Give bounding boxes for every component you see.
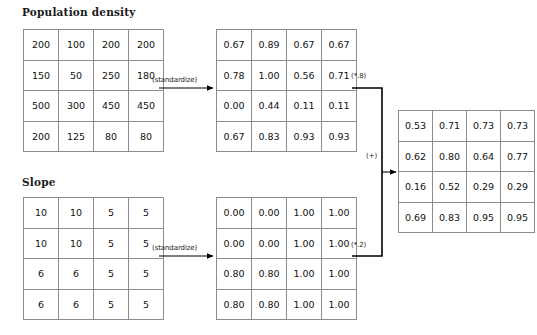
matrix-cell: 0.80 xyxy=(217,289,252,320)
matrix-cell: 0.95 xyxy=(501,202,535,233)
matrix-cell: 5 xyxy=(129,289,164,320)
matrix-row: 15050250180 xyxy=(24,60,164,91)
matrix-cell: 0.67 xyxy=(322,30,357,61)
matrix-cell: 10 xyxy=(24,198,59,229)
matrix-cell: 1.00 xyxy=(287,289,322,320)
matrix-cell: 250 xyxy=(94,60,129,91)
matrix-cell: 0.80 xyxy=(252,289,287,320)
matrix-cell: 150 xyxy=(24,60,59,91)
matrix-cell: 0.53 xyxy=(399,111,433,142)
matrix-cell: 0.67 xyxy=(287,30,322,61)
matrix-cell: 0.11 xyxy=(287,91,322,122)
matrix-cell: 0.78 xyxy=(217,60,252,91)
matrix-cell: 6 xyxy=(24,289,59,320)
matrix-cell: 500 xyxy=(24,91,59,122)
matrix-cell: 0.80 xyxy=(433,141,467,172)
matrix-row: 0.670.830.930.93 xyxy=(217,121,357,152)
matrix-cell: 5 xyxy=(129,198,164,229)
matrix-cell: 0.00 xyxy=(252,228,287,259)
matrix-cell: 5 xyxy=(94,259,129,290)
matrix-cell: 300 xyxy=(59,91,94,122)
matrix-cell: 5 xyxy=(129,259,164,290)
matrix-row: 0.781.000.560.71 xyxy=(217,60,357,91)
matrix-row: 0.530.710.730.73 xyxy=(399,111,535,142)
matrix-cell: 1.00 xyxy=(322,259,357,290)
matrix-row: 0.620.800.640.77 xyxy=(399,141,535,172)
matrix-cell: 0.77 xyxy=(501,141,535,172)
matrix-row: 2001258080 xyxy=(24,121,164,152)
edge-label-standardize-slope: (standardize) xyxy=(152,244,197,252)
matrix-cell: 10 xyxy=(24,228,59,259)
matrix-cell: 0.64 xyxy=(467,141,501,172)
matrix-cell: 0.80 xyxy=(217,259,252,290)
matrix-cell: 0.73 xyxy=(467,111,501,142)
matrix-cell: 200 xyxy=(94,30,129,61)
matrix-cell: 0.93 xyxy=(322,121,357,152)
slope-title: Slope xyxy=(22,176,56,188)
matrix-row: 0.800.801.001.00 xyxy=(217,259,357,290)
population-density-title: Population density xyxy=(22,6,136,18)
matrix-cell: 0.00 xyxy=(217,198,252,229)
matrix-cell: 0.44 xyxy=(252,91,287,122)
matrix-cell: 6 xyxy=(59,289,94,320)
matrix-cell: 0.11 xyxy=(322,91,357,122)
matrix-cell: 0.62 xyxy=(399,141,433,172)
matrix-cell: 1.00 xyxy=(287,259,322,290)
matrix-cell: 80 xyxy=(129,121,164,152)
matrix-cell: 1.00 xyxy=(287,198,322,229)
matrix-row: 0.800.801.001.00 xyxy=(217,289,357,320)
edge-label-weight-population: (*.8) xyxy=(351,72,366,80)
matrix-row: 6655 xyxy=(24,259,164,290)
diagram-canvas: Population density Slope 200100200200150… xyxy=(0,0,537,335)
matrix-row: 0.160.520.290.29 xyxy=(399,172,535,203)
matrix-cell: 0.95 xyxy=(467,202,501,233)
population-density-standardized-matrix: 0.670.890.670.670.781.000.560.710.000.44… xyxy=(216,29,357,152)
matrix-cell: 1.00 xyxy=(322,289,357,320)
matrix-cell: 125 xyxy=(59,121,94,152)
edge-label-weight-slope: (*.2) xyxy=(351,241,366,249)
matrix-row: 500300450450 xyxy=(24,91,164,122)
matrix-row: 0.670.890.670.67 xyxy=(217,30,357,61)
matrix-cell: 80 xyxy=(94,121,129,152)
matrix-cell: 200 xyxy=(129,30,164,61)
matrix-row: 0.000.001.001.00 xyxy=(217,198,357,229)
matrix-row: 200100200200 xyxy=(24,30,164,61)
weighted-sum-result-matrix: 0.530.710.730.730.620.800.640.770.160.52… xyxy=(398,110,535,233)
matrix-cell: 0.56 xyxy=(287,60,322,91)
matrix-cell: 0.93 xyxy=(287,121,322,152)
matrix-cell: 1.00 xyxy=(252,60,287,91)
matrix-cell: 0.83 xyxy=(252,121,287,152)
matrix-cell: 0.29 xyxy=(467,172,501,203)
matrix-cell: 0.29 xyxy=(501,172,535,203)
matrix-cell: 0.69 xyxy=(399,202,433,233)
matrix-row: 6655 xyxy=(24,289,164,320)
matrix-cell: 0.89 xyxy=(252,30,287,61)
matrix-cell: 0.67 xyxy=(217,121,252,152)
matrix-row: 101055 xyxy=(24,228,164,259)
matrix-cell: 0.16 xyxy=(399,172,433,203)
matrix-cell: 50 xyxy=(59,60,94,91)
matrix-cell: 200 xyxy=(24,30,59,61)
matrix-cell: 450 xyxy=(94,91,129,122)
matrix-cell: 0.73 xyxy=(501,111,535,142)
matrix-cell: 1.00 xyxy=(322,198,357,229)
matrix-cell: 0.52 xyxy=(433,172,467,203)
matrix-cell: 1.00 xyxy=(287,228,322,259)
matrix-cell: 0.67 xyxy=(217,30,252,61)
matrix-cell: 5 xyxy=(94,289,129,320)
slope-standardized-matrix: 0.000.001.001.000.000.001.001.000.800.80… xyxy=(216,197,357,320)
matrix-cell: 5 xyxy=(94,198,129,229)
matrix-cell: 0.00 xyxy=(252,198,287,229)
matrix-cell: 0.00 xyxy=(217,228,252,259)
matrix-cell: 450 xyxy=(129,91,164,122)
edge-label-sum: (+) xyxy=(366,152,377,160)
matrix-cell: 0.00 xyxy=(217,91,252,122)
matrix-cell: 0.83 xyxy=(433,202,467,233)
matrix-row: 0.000.440.110.11 xyxy=(217,91,357,122)
matrix-row: 101055 xyxy=(24,198,164,229)
matrix-cell: 5 xyxy=(94,228,129,259)
matrix-row: 0.000.001.001.00 xyxy=(217,228,357,259)
edge-label-standardize-population: (standardize) xyxy=(152,76,197,84)
matrix-cell: 6 xyxy=(59,259,94,290)
slope-input-matrix: 10105510105566556655 xyxy=(23,197,164,320)
